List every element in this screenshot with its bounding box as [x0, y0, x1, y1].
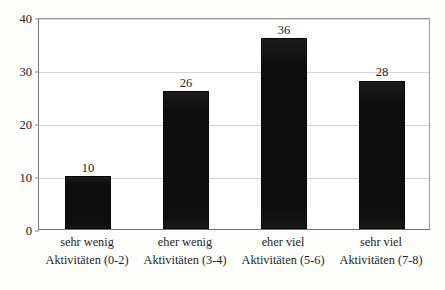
y-axis-tick-label: 30: [20, 66, 33, 79]
bar: 26: [163, 91, 209, 229]
category-label-line1: eher wenig: [136, 234, 234, 252]
bar: 36: [261, 38, 307, 229]
x-axis-category-label: eher wenigAktivitäten (3-4): [136, 234, 234, 269]
bar: 10: [65, 176, 111, 229]
y-axis-tick-label: 0: [26, 225, 32, 238]
bar-value-label: 10: [82, 162, 95, 175]
x-axis-category-label: sehr wenigAktivitäten (0-2): [38, 234, 136, 269]
cropped-title-artifact: ...: [96, 0, 206, 8]
y-tick-mark-0: [35, 231, 39, 232]
category-label-line1: sehr wenig: [38, 234, 136, 252]
y-axis-tick-label: 40: [20, 13, 33, 26]
x-axis-category-label: sehr vielAktivitäten (7-8): [332, 234, 430, 269]
category-label-line2: Aktivitäten (3-4): [136, 252, 234, 270]
y-axis-tick-label: 10: [20, 172, 33, 185]
gridline-y-30: [39, 72, 429, 73]
y-tick-mark-30: [35, 72, 39, 73]
x-axis-category-labels: sehr wenigAktivitäten (0-2)eher wenigAkt…: [38, 234, 430, 286]
gridline-y-40: [39, 19, 429, 20]
plot-area: 01020304010263628: [38, 18, 430, 230]
y-tick-mark-40: [35, 19, 39, 20]
bar-chart-figure: ... 01020304010263628 sehr wenigAktivitä…: [0, 0, 445, 290]
y-axis-tick-label: 20: [20, 119, 33, 132]
bar-value-label: 28: [376, 66, 389, 79]
category-label-line1: eher viel: [234, 234, 332, 252]
bar: 28: [359, 81, 405, 229]
category-label-line2: Aktivitäten (7-8): [332, 252, 430, 270]
bar-value-label: 26: [180, 77, 193, 90]
category-label-line1: sehr viel: [332, 234, 430, 252]
category-label-line2: Aktivitäten (5-6): [234, 252, 332, 270]
y-tick-mark-10: [35, 178, 39, 179]
bar-value-label: 36: [278, 24, 291, 37]
x-axis-category-label: eher vielAktivitäten (5-6): [234, 234, 332, 269]
y-tick-mark-20: [35, 125, 39, 126]
category-label-line2: Aktivitäten (0-2): [38, 252, 136, 270]
